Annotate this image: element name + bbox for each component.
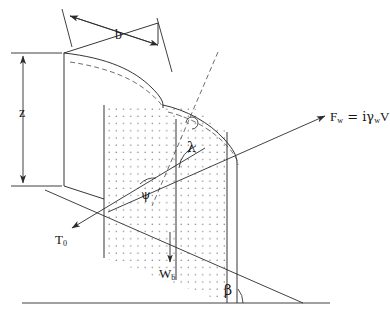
toe-force-subscript: 0 [63, 239, 67, 248]
angle-beta-label: β [224, 283, 232, 297]
diagram-canvas [0, 0, 390, 318]
water-force-equation-mid: = iγ [343, 109, 374, 124]
water-force-volume: V [380, 109, 389, 124]
block-weight-subscript: b [171, 273, 175, 282]
width-arrow-line-2 [70, 16, 158, 45]
water-force-label: Fw = iγwV [330, 110, 389, 125]
toe-force-symbol: T [55, 232, 63, 247]
figure-caption [42, 309, 348, 318]
angle-psi-label: ψ [141, 189, 150, 201]
toe-force-label: T0 [55, 233, 67, 248]
front-lobe-one [64, 53, 163, 105]
bottom-left-edge [64, 186, 104, 199]
width-extension-right [157, 18, 172, 72]
block-weight-symbol: W [159, 266, 171, 281]
beta-arc [238, 289, 243, 303]
width-dimension-label: b [115, 28, 122, 42]
block-weight-label: Wb [159, 267, 175, 282]
height-dimension-label: z [19, 106, 25, 120]
top-rear-edge [64, 23, 158, 53]
width-extension-left [62, 9, 72, 47]
angle-lambda-label: λ [187, 140, 196, 154]
